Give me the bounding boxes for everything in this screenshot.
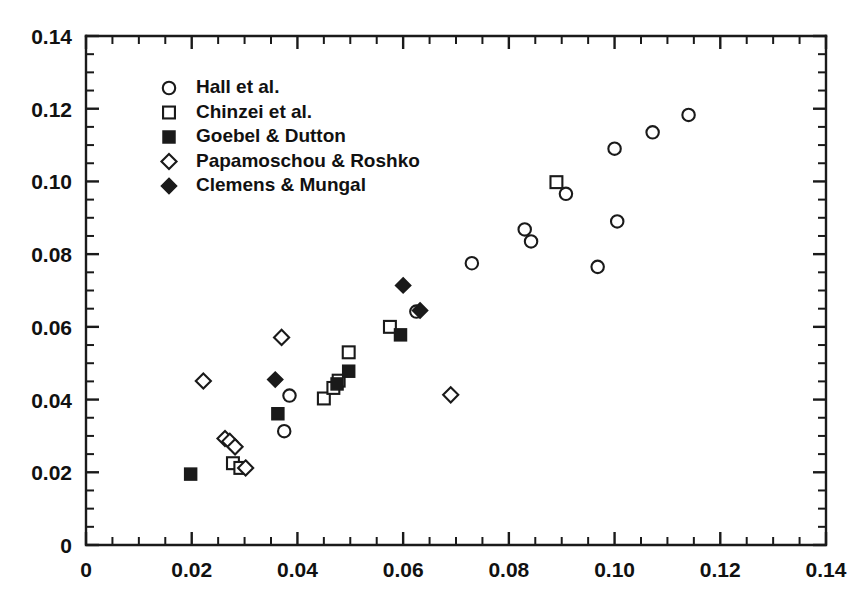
legend-label: Chinzei et al.: [196, 101, 312, 122]
data-point-square-open: [343, 346, 355, 358]
series-goebel-dutton: [185, 329, 407, 480]
legend-label: Clemens & Mungal: [196, 174, 366, 195]
legend-marker-circle-open: [163, 82, 175, 94]
x-tick-label: 0: [80, 558, 92, 581]
data-point-square-filled: [272, 408, 284, 420]
legend-label: Goebel & Dutton: [196, 125, 346, 146]
y-tick-label: 0: [60, 534, 72, 557]
y-tick-label: 0.08: [31, 243, 72, 266]
data-point-circle-open: [608, 142, 620, 154]
data-point-circle-open: [519, 223, 531, 235]
data-point-circle-open: [591, 261, 603, 273]
x-tick-label: 0.08: [488, 558, 529, 581]
legend-item-chinzei-et-al[interactable]: Chinzei et al.: [163, 101, 312, 122]
scatter-plot-figure: 00.020.040.060.080.100.120.1400.020.040.…: [0, 0, 867, 607]
legend-item-hall-et-al[interactable]: Hall et al.: [163, 76, 280, 97]
data-point-diamond-open: [196, 373, 211, 388]
legend-item-clemens-mungal[interactable]: Clemens & Mungal: [161, 174, 366, 195]
legend-item-papamoschou-roshko[interactable]: Papamoschou & Roshko: [161, 150, 419, 171]
data-point-circle-open: [646, 126, 658, 138]
data-point-circle-open: [466, 257, 478, 269]
data-point-circle-open: [560, 188, 572, 200]
data-point-circle-open: [682, 109, 694, 121]
x-tick-label: 0.06: [383, 558, 424, 581]
legend-marker-diamond-filled: [161, 178, 176, 193]
legend-marker-diamond-open: [161, 154, 176, 169]
x-tick-label: 0.14: [806, 558, 847, 581]
data-point-circle-open: [283, 389, 295, 401]
data-point-diamond-open: [274, 330, 289, 345]
y-tick-label: 0.14: [31, 25, 72, 48]
x-tick-label: 0.10: [594, 558, 635, 581]
data-point-circle-open: [278, 425, 290, 437]
data-point-diamond-open: [443, 387, 458, 402]
legend-item-goebel-dutton[interactable]: Goebel & Dutton: [163, 125, 346, 146]
data-point-diamond-filled: [268, 372, 283, 387]
data-point-square-open: [550, 176, 562, 188]
data-point-square-filled: [331, 378, 343, 390]
data-point-circle-open: [611, 215, 623, 227]
data-point-square-filled: [185, 468, 197, 480]
y-tick-label: 0.12: [31, 98, 72, 121]
x-tick-label: 0.02: [171, 558, 212, 581]
legend-label: Papamoschou & Roshko: [196, 150, 420, 171]
data-point-square-filled: [343, 365, 355, 377]
data-point-square-filled: [395, 329, 407, 341]
x-tick-label: 0.04: [277, 558, 318, 581]
legend: Hall et al.Chinzei et al.Goebel & Dutton…: [161, 76, 419, 195]
plot-canvas: 00.020.040.060.080.100.120.1400.020.040.…: [0, 0, 867, 607]
y-tick-label: 0.02: [31, 461, 72, 484]
axis-tick-labels: 00.020.040.060.080.100.120.1400.020.040.…: [31, 25, 847, 581]
legend-marker-square-open: [163, 107, 175, 119]
y-tick-label: 0.06: [31, 316, 72, 339]
legend-label: Hall et al.: [196, 76, 279, 97]
data-point-circle-open: [525, 235, 537, 247]
y-tick-label: 0.10: [31, 170, 72, 193]
x-tick-label: 0.12: [700, 558, 741, 581]
y-tick-label: 0.04: [31, 389, 72, 412]
legend-marker-square-filled: [163, 131, 175, 143]
data-point-diamond-filled: [396, 278, 411, 293]
